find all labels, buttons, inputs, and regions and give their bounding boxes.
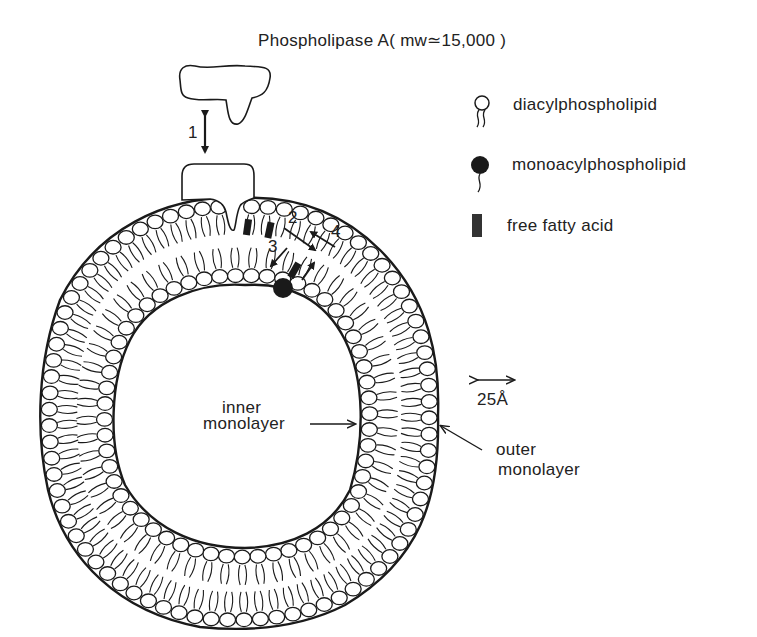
lipid-head [188, 543, 204, 557]
lipid-head [421, 411, 437, 425]
lipid-head [252, 612, 268, 626]
lipid-head [145, 523, 161, 537]
lipid-head [394, 285, 410, 299]
lipid-head [358, 454, 374, 468]
lipid-head [220, 613, 236, 627]
lipid-head [304, 284, 320, 298]
lipid-head [343, 499, 359, 513]
lipid-head [310, 531, 326, 545]
lipid-head [122, 501, 138, 515]
lipid-head [345, 582, 361, 596]
lipid-head [166, 282, 182, 296]
lipid-head [99, 444, 115, 458]
lipid-head [421, 427, 437, 441]
lipid-head [408, 314, 424, 328]
lipid-head [159, 531, 175, 545]
lipid-head [203, 612, 219, 626]
lipid-head [328, 304, 344, 318]
lipid-head [228, 269, 244, 283]
lipid-head [362, 407, 378, 421]
step-4-label: 4 [331, 222, 340, 242]
lipid-head [97, 413, 113, 427]
scale-bar-label: 25Å [477, 390, 508, 410]
lipid-head [361, 391, 377, 405]
lipid-head [132, 222, 148, 236]
lipid-head [97, 428, 113, 442]
lipid-head [382, 550, 398, 564]
lipid-head [99, 381, 115, 395]
lipid-head [102, 365, 118, 379]
lipid-head [88, 555, 104, 569]
lipid-head [140, 594, 156, 608]
lipid-head [57, 306, 73, 320]
lipid-head [243, 269, 259, 283]
lipid-head [363, 247, 379, 261]
lipid-head [419, 460, 435, 474]
lipid-head [400, 523, 416, 537]
lipid-head [171, 606, 187, 620]
lipid-head [308, 211, 324, 225]
lipid-head [212, 270, 228, 284]
lipid-head [421, 378, 437, 392]
lipid-head [374, 258, 390, 272]
lipid-head [361, 423, 377, 437]
lipid-head [106, 475, 122, 489]
lipid-head [77, 543, 93, 557]
lipid-head [63, 291, 79, 305]
lipid-head [82, 264, 98, 278]
lipid-head [44, 451, 60, 465]
lipid-head [412, 492, 428, 506]
lipid-head [100, 567, 116, 581]
lipid-head [401, 299, 417, 313]
lipid-head [102, 460, 118, 474]
lipid-head [355, 470, 371, 484]
lipid-head [54, 499, 70, 513]
lipid-head [250, 549, 266, 563]
lipid-head [351, 345, 367, 359]
diacylphospholipid-legend-icon [475, 96, 489, 127]
step-3-label: 3 [268, 237, 277, 257]
lipid-head [419, 362, 435, 376]
lipid-head [350, 485, 366, 499]
lipid-head [187, 610, 203, 624]
lipid-head [420, 444, 436, 458]
lipid-head [139, 298, 155, 312]
lipid-head [358, 573, 374, 587]
lipid-head [133, 513, 149, 527]
outer-monolayer-label-line2: monolayer [498, 460, 580, 480]
lipid-head [269, 610, 285, 624]
lipid-head [219, 549, 235, 563]
lipid-head [43, 370, 59, 384]
lipid-head [105, 240, 121, 254]
lipid-head [384, 271, 400, 285]
lipid-head [345, 330, 361, 344]
lipid-head [194, 202, 210, 216]
lipid-head [46, 468, 62, 482]
lipid-head [203, 547, 219, 561]
lipid-head [178, 205, 194, 219]
lipid-head [152, 289, 168, 303]
lipid-head [106, 350, 122, 364]
lipid-head [112, 577, 128, 591]
lipid-head [41, 402, 57, 416]
lipid-head [338, 316, 354, 330]
lipid-head [331, 591, 347, 605]
lipid-head [162, 209, 178, 223]
diagram-title: Phospholipase A( mw≃15,000 ) [258, 30, 506, 51]
lipid-head [126, 586, 142, 600]
lipid-head [234, 550, 250, 564]
legend-free-fatty-acid-label: free fatty acid [507, 216, 614, 236]
lipid-head [296, 538, 312, 552]
lipid-head [350, 236, 366, 250]
lipid-head [111, 335, 127, 349]
monoacylphospholipid-molecule [273, 278, 293, 298]
lipid-head [407, 508, 423, 522]
lipid-head [118, 231, 134, 245]
lipid-head [392, 537, 408, 551]
lipid-head [173, 538, 189, 552]
lipid-head [360, 439, 376, 453]
lipid-head [417, 346, 433, 360]
lipid-head [281, 544, 297, 558]
lipid-head [147, 215, 163, 229]
step-1-label: 1 [188, 123, 197, 143]
